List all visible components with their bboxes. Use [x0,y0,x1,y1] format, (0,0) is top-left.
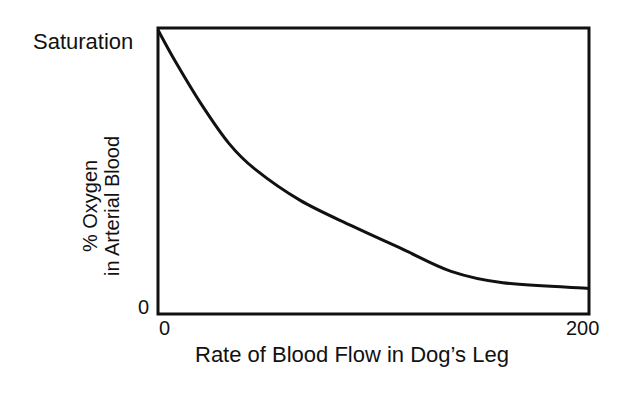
oxygen-curve [158,30,589,288]
x-axis-label: Rate of Blood Flow in Dog’s Leg [195,344,509,366]
y-axis-label-line2: in Arterial Blood [101,136,123,276]
x-tick-zero: 0 [159,318,170,338]
x-tick-max: 200 [566,318,599,338]
y-axis-label-line1: % Oxygen [79,136,101,276]
y-tick-saturation: Saturation [33,31,133,53]
y-axis-label: % Oxygen in Arterial Blood [79,136,123,276]
y-tick-zero: 0 [138,297,149,317]
plot-frame [158,28,589,314]
